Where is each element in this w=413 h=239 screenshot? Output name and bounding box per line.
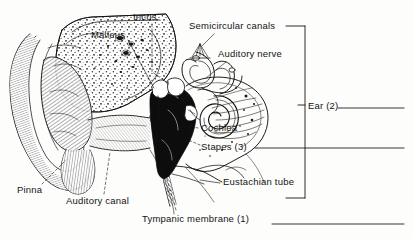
label-tympanic-membrane: Tympanic membrane (1) [142, 213, 249, 224]
label-pinna: Pinna [17, 184, 42, 195]
leader-semicircular-canals [202, 34, 214, 46]
leader-auditory-canal [104, 152, 110, 194]
ear-diagram-artwork [0, 0, 413, 239]
answer-blank-lines [255, 108, 404, 224]
label-stapes: Stapes (3) [201, 141, 247, 152]
ear-anatomy-figure: Incus Malleus Semicircular canals Audito… [0, 0, 413, 239]
label-incus: Incus [133, 11, 157, 22]
auditory-canal [88, 115, 150, 151]
ear-bracket [286, 26, 305, 198]
label-auditory-canal: Auditory canal [66, 195, 129, 206]
label-auditory-nerve: Auditory nerve [218, 48, 282, 59]
leader-eustachian-tube [200, 180, 220, 183]
middle-ear-cavity [150, 86, 196, 179]
label-malleus: Malleus [91, 29, 125, 40]
label-eustachian-tube: Eustachian tube [223, 176, 294, 187]
label-ear-bracket: Ear (2) [308, 100, 338, 111]
label-cochlea: Cochlea [201, 122, 237, 133]
leader-auditory-nerve [206, 62, 226, 78]
label-semicircular-canals: Semicircular canals [189, 20, 275, 31]
